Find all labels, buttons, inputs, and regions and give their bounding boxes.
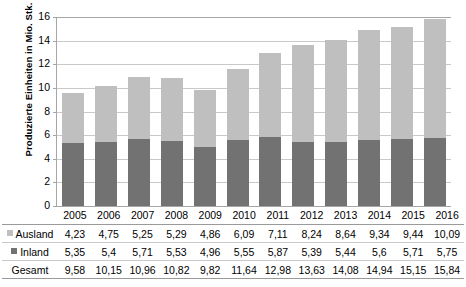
table-cell-value: 5,71 [396, 243, 430, 261]
legend-swatch-ausland-icon [7, 230, 13, 236]
plot-region: Produzierte Einheiten in Mio. Stk. 16141… [0, 0, 466, 214]
x-axis-year-label: 2016 [430, 206, 464, 225]
table-cell-value: 6,09 [227, 225, 261, 243]
bar-group[interactable] [424, 19, 446, 206]
table-cell-total: 10,15 [92, 261, 126, 279]
bar-segment-inland[interactable] [391, 139, 413, 206]
table-row-header-gesamt: Gesamt [2, 261, 58, 279]
table-cell-value: 9,44 [396, 225, 430, 243]
bar-segment-inland[interactable] [259, 137, 281, 206]
plot-area [56, 17, 451, 207]
bar-segment-ausland[interactable] [391, 27, 413, 139]
bar-group[interactable] [325, 40, 347, 206]
bar-segment-ausland[interactable] [227, 69, 249, 141]
bar-segment-inland[interactable] [161, 141, 183, 206]
legend-item-inland[interactable]: Inland [2, 243, 58, 261]
x-axis-year-label: 2011 [261, 206, 295, 225]
table-cell-value: 4,23 [58, 225, 92, 243]
x-axis-corner-blank [2, 206, 58, 225]
bar-segment-ausland[interactable] [325, 40, 347, 142]
bar-segment-inland[interactable] [292, 142, 314, 206]
bar-segment-ausland[interactable] [95, 86, 117, 142]
bar-segment-inland[interactable] [227, 140, 249, 206]
table-cell-value: 5,35 [58, 243, 92, 261]
table-cell-total: 10,96 [126, 261, 160, 279]
table-cell-total: 10,82 [159, 261, 193, 279]
x-axis-year-label: 2012 [295, 206, 329, 225]
bar-group[interactable] [62, 93, 84, 206]
table-cell-value: 9,34 [362, 225, 396, 243]
bar-segment-ausland[interactable] [259, 53, 281, 137]
table-cell-value: 4,75 [92, 225, 126, 243]
bars-layer [57, 17, 451, 206]
bar-segment-ausland[interactable] [424, 19, 446, 138]
table-cell-total: 14,08 [329, 261, 363, 279]
table-cell-value: 5,39 [295, 243, 329, 261]
y-tick-label: 12 [28, 58, 50, 69]
table-cell-value: 5,4 [92, 243, 126, 261]
table-cell-total: 13,63 [295, 261, 329, 279]
bar-segment-ausland[interactable] [358, 30, 380, 140]
table-cell-total: 11,64 [227, 261, 261, 279]
legend-swatch-inland-icon [11, 248, 17, 254]
table-cell-value: 4,96 [193, 243, 227, 261]
bar-group[interactable] [391, 27, 413, 206]
table-cell-value: 5,75 [430, 243, 464, 261]
bar-segment-ausland[interactable] [128, 77, 150, 139]
y-tick-label: 10 [28, 82, 50, 93]
bar-segment-ausland[interactable] [292, 45, 314, 142]
table-cell-value: 5,6 [362, 243, 396, 261]
table-cell-total: 9,58 [58, 261, 92, 279]
y-tick-label: 16 [28, 11, 50, 22]
legend-item-ausland[interactable]: Ausland [2, 225, 58, 243]
data-table: 2005200620072008200920102011201220132014… [2, 206, 464, 279]
table-cell-total: 14,94 [362, 261, 396, 279]
y-tick-label: 14 [28, 35, 50, 46]
x-axis-year-label: 2015 [396, 206, 430, 225]
data-table-region: 2005200620072008200920102011201220132014… [0, 206, 466, 287]
bar-segment-ausland[interactable] [161, 78, 183, 140]
bar-segment-ausland[interactable] [62, 93, 84, 143]
table-cell-total: 15,15 [396, 261, 430, 279]
y-tick-label: 2 [28, 176, 50, 187]
bar-segment-inland[interactable] [95, 142, 117, 206]
y-axis-tick-labels: 1614121086420 [26, 0, 50, 214]
bar-group[interactable] [358, 30, 380, 206]
table-row-inland: Inland5,355,45,715,534,965,555,875,395,4… [2, 243, 464, 261]
bar-segment-inland[interactable] [325, 142, 347, 206]
stacked-bar-chart: Produzierte Einheiten in Mio. Stk. 16141… [0, 0, 466, 287]
x-axis-year-label: 2013 [329, 206, 363, 225]
legend-label: Inland [20, 246, 49, 258]
bar-segment-ausland[interactable] [194, 90, 216, 147]
bar-group[interactable] [161, 78, 183, 206]
table-cell-total: 9,82 [193, 261, 227, 279]
table-cell-value: 10,09 [430, 225, 464, 243]
bar-group[interactable] [227, 69, 249, 206]
y-tick-label: 6 [28, 129, 50, 140]
x-axis-year-label: 2010 [227, 206, 261, 225]
data-table-body: 2005200620072008200920102011201220132014… [2, 206, 464, 279]
table-cell-value: 7,11 [261, 225, 295, 243]
bar-group[interactable] [194, 90, 216, 206]
bar-segment-inland[interactable] [358, 140, 380, 206]
table-cell-total: 15,84 [430, 261, 464, 279]
bar-segment-inland[interactable] [424, 138, 446, 206]
bar-group[interactable] [95, 86, 117, 206]
table-cell-value: 5,44 [329, 243, 363, 261]
table-cell-value: 5,53 [159, 243, 193, 261]
legend-label: Ausland [16, 228, 54, 240]
x-axis-year-label: 2005 [58, 206, 92, 225]
bar-segment-inland[interactable] [194, 147, 216, 206]
bar-segment-inland[interactable] [128, 139, 150, 206]
bar-group[interactable] [292, 45, 314, 206]
table-cell-value: 5,87 [261, 243, 295, 261]
table-row-gesamt: Gesamt9,5810,1510,9610,829,8211,6412,981… [2, 261, 464, 279]
table-cell-value: 5,29 [159, 225, 193, 243]
bar-group[interactable] [259, 53, 281, 206]
table-cell-value: 5,71 [126, 243, 160, 261]
table-cell-value: 8,64 [329, 225, 363, 243]
bar-segment-inland[interactable] [62, 143, 84, 206]
bar-group[interactable] [128, 77, 150, 206]
table-cell-value: 8,24 [295, 225, 329, 243]
table-cell-value: 5,55 [227, 243, 261, 261]
